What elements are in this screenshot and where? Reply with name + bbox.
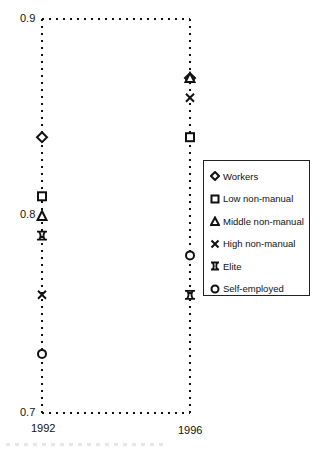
legend-label: Middle non-manual	[223, 216, 304, 227]
legend: Workers Low non-manual Middle non-manual…	[203, 160, 310, 296]
data-point-triangle	[186, 73, 195, 82]
y-tick-0.7: 0.7	[20, 406, 35, 418]
circle-marker-icon	[210, 284, 220, 294]
x-tick-1992: 1992	[31, 422, 55, 434]
legend-item-middle-non-manual: Middle non-manual	[204, 210, 309, 233]
legend-item-workers: Workers	[204, 165, 309, 188]
y-tick-0.8: 0.8	[20, 208, 35, 220]
x-marker-icon	[210, 239, 220, 249]
hourglass-square-marker-icon	[210, 261, 220, 271]
data-point-square	[186, 133, 194, 141]
legend-label: Low non-manual	[223, 193, 293, 204]
square-marker-icon	[210, 194, 220, 204]
x-tick-1996: 1996	[178, 424, 202, 436]
data-point-diamond	[37, 132, 47, 142]
diamond-marker-icon	[210, 171, 220, 181]
data-point-hourglass-square	[37, 232, 47, 240]
legend-label: Workers	[223, 171, 258, 182]
data-points	[37, 73, 195, 358]
legend-item-high-non-manual: High non-manual	[204, 233, 309, 256]
triangle-marker-icon	[210, 216, 220, 226]
legend-item-low-non-manual: Low non-manual	[204, 188, 309, 211]
legend-label: Elite	[223, 261, 241, 272]
data-point-circle	[38, 350, 46, 358]
data-point-circle	[186, 251, 194, 259]
y-tick-0.9: 0.9	[20, 12, 35, 24]
data-point-triangle	[38, 211, 47, 220]
data-point-square	[38, 192, 46, 200]
legend-item-elite: Elite	[204, 255, 309, 278]
legend-label: Self-employed	[223, 283, 284, 294]
legend-label: High non-manual	[223, 238, 295, 249]
dotted-frame	[42, 19, 190, 413]
data-point-x	[186, 94, 194, 102]
clipped-caption-line	[6, 443, 166, 446]
legend-item-self-employed: Self-employed	[204, 278, 309, 301]
